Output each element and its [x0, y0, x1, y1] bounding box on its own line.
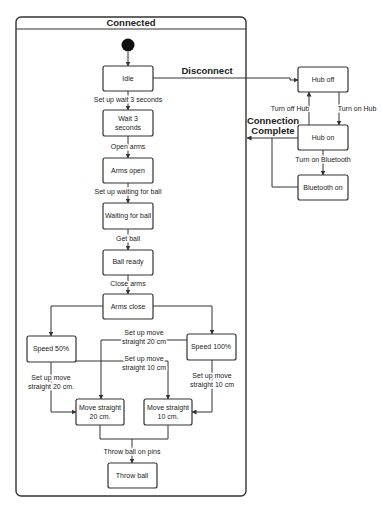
state-wait-3-seconds[interactable]: Wait 3 seconds	[103, 110, 153, 136]
initial-state-dot	[122, 39, 135, 52]
label-disconnect: Disconnect	[181, 65, 233, 76]
svg-text:Throw ball: Throw ball	[116, 472, 149, 479]
state-speed-50[interactable]: Speed 50%	[27, 336, 76, 362]
label-set-up-wait: Set up wait 3 seconds	[94, 96, 163, 104]
state-move-straight-20[interactable]: Move straight 20 cm.	[76, 399, 124, 425]
svg-text:straight 10 cm: straight 10 cm	[122, 364, 166, 372]
state-ball-ready[interactable]: Ball ready	[103, 250, 153, 275]
svg-text:Speed 50%: Speed 50%	[33, 345, 69, 353]
label-turn-on-hub: Turn on Hub	[338, 105, 377, 112]
svg-text:straight 20 cm: straight 20 cm	[122, 338, 166, 346]
svg-text:Speed 100%: Speed 100%	[191, 343, 231, 351]
svg-text:Move straight: Move straight	[147, 404, 189, 412]
label-set-up-move-20-left: Set up move	[31, 374, 70, 382]
label-turn-on-bluetooth: Turn on Bluetooth	[295, 156, 350, 163]
label-set-up-move-10-right: Set up move	[192, 372, 231, 380]
label-get-ball: Get ball	[116, 235, 141, 242]
svg-text:Move straight: Move straight	[79, 404, 121, 412]
svg-text:Wait 3: Wait 3	[118, 115, 138, 122]
state-idle[interactable]: Idle	[103, 66, 153, 91]
state-diagram: Connected Idle Set up wait 3 seconds Wai…	[0, 0, 383, 509]
label-throw-ball-on-pins: Throw ball on pins	[104, 448, 161, 456]
svg-text:Idle: Idle	[122, 75, 133, 82]
label-close-arms: Close arms	[110, 280, 146, 287]
state-bluetooth-on[interactable]: Bluetooth on	[298, 175, 348, 200]
label-set-up-move-10-mid: Set up move	[124, 355, 163, 363]
state-arms-open[interactable]: Arms open	[103, 158, 153, 183]
label-connection-complete-2: Complete	[251, 125, 294, 136]
svg-text:Arms close: Arms close	[111, 303, 146, 310]
state-move-straight-10[interactable]: Move straight 10 cm.	[144, 399, 192, 425]
svg-text:20 cm.: 20 cm.	[89, 413, 110, 420]
svg-text:Arms open: Arms open	[111, 167, 145, 175]
label-open-arms: Open arms	[111, 143, 146, 151]
svg-text:Hub on: Hub on	[312, 134, 335, 141]
svg-text:straight 20 cm.: straight 20 cm.	[28, 383, 74, 391]
svg-text:seconds: seconds	[115, 124, 142, 131]
transition-bluetooth-to-connected	[272, 138, 298, 187]
state-hub-off[interactable]: Hub off	[298, 67, 348, 92]
svg-text:Hub off: Hub off	[312, 76, 334, 83]
label-turn-off-hub: Turn off Hub	[271, 105, 310, 112]
svg-text:Bluetooth on: Bluetooth on	[303, 184, 342, 191]
label-set-up-waiting: Set up waiting for ball	[95, 188, 162, 196]
svg-text:Ball ready: Ball ready	[112, 258, 144, 266]
state-hub-on[interactable]: Hub on	[298, 125, 348, 150]
svg-text:Waiting for ball: Waiting for ball	[105, 212, 151, 220]
svg-text:10 cm.: 10 cm.	[157, 413, 178, 420]
composite-state-title: Connected	[106, 17, 155, 28]
label-set-up-move-20-mid: Set up move	[124, 329, 163, 337]
svg-text:straight 10 cm: straight 10 cm	[190, 381, 234, 389]
state-throw-ball[interactable]: Throw ball	[108, 463, 157, 488]
state-speed-100[interactable]: Speed 100%	[187, 334, 236, 360]
state-arms-close[interactable]: Arms close	[103, 294, 153, 319]
state-waiting-for-ball[interactable]: Waiting for ball	[103, 203, 153, 229]
